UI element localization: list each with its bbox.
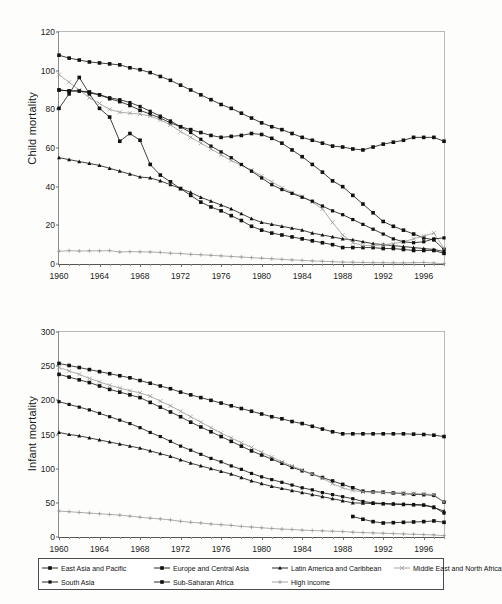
x-tick-label: 1972 — [171, 264, 190, 281]
legend-item: Sub-Saharan Africa — [153, 578, 271, 586]
x-tick-label: 1960 — [50, 537, 69, 554]
legend-item: Europe and Central Asia — [153, 564, 271, 572]
y-axis-title-child: Child mortality — [26, 92, 38, 165]
x-tick-mark — [150, 264, 151, 266]
x-tick-mark — [120, 264, 121, 266]
chart-infant-mortality: Infant mortality 05010015020025030019601… — [0, 300, 465, 550]
x-tick-label: 1988 — [333, 537, 352, 554]
legend-label: Middle East and North Africa — [413, 565, 502, 572]
series-latin-america-and-caribbean — [57, 430, 446, 512]
series-sub-saharan-africa — [57, 53, 446, 151]
x-tick-label: 1960 — [50, 264, 69, 281]
x-tick-mark — [322, 537, 323, 539]
legend-label: Europe and Central Asia — [173, 565, 249, 572]
x-tick-mark — [282, 537, 283, 539]
x-tick-mark — [272, 537, 273, 539]
series-east-asia-and-pacific — [57, 373, 446, 504]
x-tick-mark — [363, 537, 364, 539]
x-tick-mark — [201, 264, 202, 266]
series-south-asia — [57, 400, 445, 515]
x-tick-mark — [120, 537, 121, 539]
x-tick-mark — [79, 264, 80, 266]
x-tick-mark — [150, 537, 151, 539]
legend-label: High income — [291, 579, 330, 586]
legend-label: Sub-Saharan Africa — [173, 579, 234, 586]
legend-item: East Asia and Pacific — [41, 564, 153, 572]
x-tick-mark — [160, 264, 161, 266]
x-tick-mark — [231, 537, 232, 539]
cross-marker-icon — [393, 564, 411, 572]
x-tick-mark — [282, 264, 283, 266]
series-high-income — [57, 249, 446, 266]
x-tick-label: 1968 — [131, 537, 150, 554]
x-tick-label: 1968 — [131, 264, 150, 281]
x-tick-mark — [241, 264, 242, 266]
square-small-marker-icon — [41, 578, 59, 586]
x-tick-mark — [322, 264, 323, 266]
x-tick-label: 1996 — [414, 537, 433, 554]
series-layer — [59, 32, 444, 264]
x-tick-mark — [393, 537, 394, 539]
legend-item: Latin America and Caribbean — [271, 564, 393, 572]
x-tick-label: 1996 — [414, 264, 433, 281]
x-tick-mark — [272, 264, 273, 266]
legend-label: Latin America and Caribbean — [291, 565, 381, 572]
x-tick-label: 1964 — [90, 264, 109, 281]
x-tick-label: 1984 — [293, 264, 312, 281]
series-high-income — [57, 509, 446, 538]
x-tick-mark — [241, 537, 242, 539]
series-middle-east-and-north-africa — [57, 366, 446, 505]
x-tick-mark — [191, 537, 192, 539]
x-tick-mark — [160, 537, 161, 539]
x-tick-mark — [201, 537, 202, 539]
x-tick-label: 1976 — [212, 537, 231, 554]
chart-child-mortality: Child mortality 020406080100120196019641… — [0, 0, 465, 300]
x-tick-label: 1992 — [374, 264, 393, 281]
x-tick-mark — [191, 264, 192, 266]
plot-area-child-mortality: 0204060801001201960196419681972197619801… — [58, 31, 445, 265]
x-tick-label: 1980 — [252, 264, 271, 281]
series-east-asia-and-pacific — [57, 76, 446, 256]
x-tick-mark — [312, 264, 313, 266]
x-tick-label: 1976 — [212, 264, 231, 281]
legend-item: High income — [271, 578, 393, 586]
series-sub-saharan-africa — [57, 362, 446, 439]
legend-item: Middle East and North Africa — [393, 564, 502, 572]
y-axis-title-infant: Infant mortality — [26, 396, 38, 471]
x-tick-mark — [79, 537, 80, 539]
plus-marker-icon — [271, 578, 289, 586]
series-layer — [59, 332, 444, 537]
x-tick-label: 1980 — [252, 537, 271, 554]
x-tick-mark — [312, 537, 313, 539]
legend-item: South Asia — [41, 578, 153, 586]
series-europe-and-central-asia — [351, 515, 446, 525]
x-tick-label: 1964 — [90, 537, 109, 554]
x-tick-mark — [110, 264, 111, 266]
x-tick-mark — [110, 537, 111, 539]
legend-label: South Asia — [61, 579, 94, 586]
x-tick-label: 1992 — [374, 537, 393, 554]
x-tick-mark — [69, 537, 70, 539]
x-tick-label: 1972 — [171, 537, 190, 554]
chart-legend: East Asia and PacificEurope and Central … — [38, 558, 444, 590]
x-tick-mark — [353, 537, 354, 539]
plot-area-infant-mortality: 0501001502002503001960196419681972197619… — [58, 331, 445, 538]
x-tick-mark — [69, 264, 70, 266]
diamond-marker-icon — [41, 564, 59, 572]
legend-label: East Asia and Pacific — [61, 565, 126, 572]
x-tick-mark — [353, 264, 354, 266]
x-tick-mark — [231, 264, 232, 266]
square-marker-icon — [153, 564, 171, 572]
triangle-marker-icon — [271, 564, 289, 572]
x-tick-mark — [434, 537, 435, 539]
x-tick-label: 1984 — [293, 537, 312, 554]
x-tick-label: 1988 — [333, 264, 352, 281]
series-south-asia — [57, 88, 445, 244]
diamond-marker-icon — [153, 578, 171, 586]
x-tick-mark — [403, 537, 404, 539]
